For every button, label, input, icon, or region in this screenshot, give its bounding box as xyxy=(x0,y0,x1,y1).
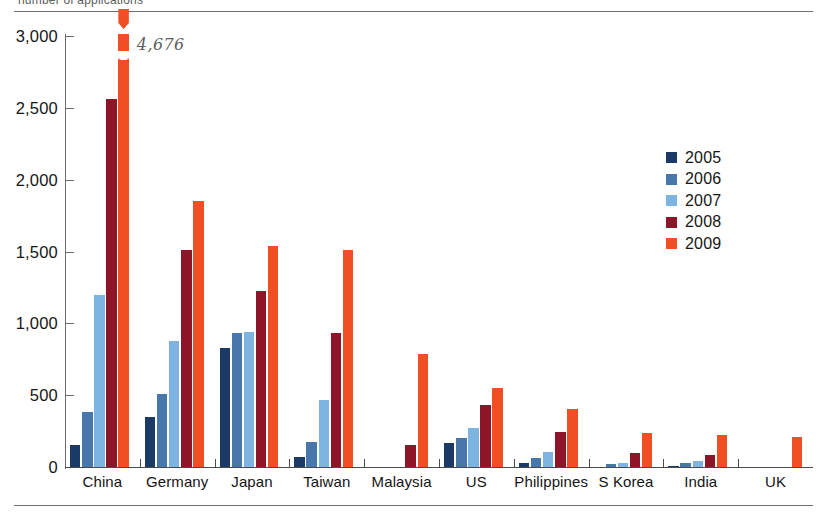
bar-malaysia-2008 xyxy=(405,445,416,467)
bar-india-2007 xyxy=(693,461,704,467)
y-axis-tick-label: 3,000 xyxy=(2,27,58,46)
bar-india-2008 xyxy=(705,455,716,467)
legend-item-2009[interactable]: 2009 xyxy=(666,233,746,255)
legend-swatch-icon xyxy=(666,217,677,228)
bar-germany-2005 xyxy=(145,417,156,467)
bar-germany-2007 xyxy=(169,341,180,467)
bar-philippines-2005 xyxy=(519,463,530,467)
legend-item-2006[interactable]: 2006 xyxy=(666,169,746,191)
x-axis-label-us: US xyxy=(466,473,487,490)
bar-taiwan-2006 xyxy=(306,442,317,467)
bar-japan-2007 xyxy=(244,332,255,467)
y-axis-tick-label: 2,000 xyxy=(2,170,58,189)
figure-caption-text: number of applications xyxy=(18,0,438,7)
bar-us-2005 xyxy=(444,443,455,467)
y-axis-tick-label: 1,500 xyxy=(2,242,58,261)
bar-taiwan-2007 xyxy=(319,400,330,467)
bar-india-2005 xyxy=(668,466,679,467)
legend-swatch-icon xyxy=(666,238,677,249)
bar-germany-2006 xyxy=(157,394,168,467)
legend-swatch-icon xyxy=(666,174,677,185)
legend-item-label: 2009 xyxy=(685,236,721,252)
legend-item-label: 2008 xyxy=(685,214,721,230)
figure-caption-clipped: number of applications xyxy=(18,0,438,10)
legend-swatch-icon xyxy=(666,195,677,206)
axis-break-notch xyxy=(118,51,129,60)
y-axis-tick-label: 0 xyxy=(2,458,58,477)
axis-break-cap xyxy=(118,9,129,29)
y-axis-tick-label: 2,500 xyxy=(2,98,58,117)
chart-legend: 20052006200720082009 xyxy=(666,147,746,255)
bar-s-korea-2009 xyxy=(642,433,653,467)
y-axis-tick-label: 1,000 xyxy=(2,314,58,333)
bar-china-2007 xyxy=(94,295,105,467)
legend-item-label: 2007 xyxy=(685,193,721,209)
bar-taiwan-2008 xyxy=(331,333,342,467)
bar-china-2008 xyxy=(106,99,117,467)
bar-s-korea-2008 xyxy=(630,453,641,467)
bar-japan-2005 xyxy=(220,348,231,467)
bar-value-annotation: 4,676 xyxy=(137,35,185,54)
bar-india-2006 xyxy=(680,463,691,467)
legend-item-label: 2005 xyxy=(685,150,721,166)
x-axis-label-philippines: Philippines xyxy=(514,473,588,490)
x-axis-label-malaysia: Malaysia xyxy=(372,473,432,490)
bar-us-2008 xyxy=(480,405,491,467)
bar-malaysia-2009 xyxy=(418,354,429,467)
bar-taiwan-2009 xyxy=(343,250,354,467)
bar-taiwan-2005 xyxy=(294,457,305,467)
bar-japan-2006 xyxy=(232,333,243,467)
bar-india-2009 xyxy=(717,435,728,467)
x-axis-label-india: India xyxy=(684,473,717,490)
x-axis-label-china: China xyxy=(83,473,123,490)
bar-china-2005 xyxy=(70,445,81,467)
x-axis-label-s-korea: S Korea xyxy=(599,473,654,490)
legend-item-2008[interactable]: 2008 xyxy=(666,212,746,234)
y-axis-tick-label: 500 xyxy=(2,386,58,405)
bar-s-korea-2007 xyxy=(618,463,629,467)
legend-item-2005[interactable]: 2005 xyxy=(666,147,746,169)
bar-germany-2009 xyxy=(193,201,204,467)
bar-us-2007 xyxy=(468,428,479,468)
x-axis-label-uk: UK xyxy=(765,473,786,490)
bar-philippines-2007 xyxy=(543,452,554,467)
bar-philippines-2006 xyxy=(531,458,542,467)
legend-item-2007[interactable]: 2007 xyxy=(666,190,746,212)
legend-item-label: 2006 xyxy=(685,171,721,187)
bar-s-korea-2006 xyxy=(606,464,617,467)
y-axis-labels: 05001,0001,5002,0002,5003,000 xyxy=(0,0,58,520)
bar-japan-2009 xyxy=(268,246,279,467)
figure-bottom-rule xyxy=(14,505,813,506)
legend-swatch-icon xyxy=(666,152,677,163)
bar-us-2009 xyxy=(492,388,503,467)
bar-philippines-2009 xyxy=(567,409,578,467)
bar-us-2006 xyxy=(456,438,467,467)
x-axis-label-germany: Germany xyxy=(146,473,208,490)
bar-japan-2008 xyxy=(256,291,267,467)
bar-germany-2008 xyxy=(181,250,192,467)
chart-figure: number of applications 05001,0001,5002,0… xyxy=(0,0,827,520)
bar-uk-2009 xyxy=(792,437,803,467)
bar-china-2006 xyxy=(82,412,93,467)
figure-top-rule xyxy=(14,11,813,12)
bar-china-2009 xyxy=(118,34,129,467)
x-axis-label-taiwan: Taiwan xyxy=(303,473,350,490)
x-axis-label-japan: Japan xyxy=(231,473,272,490)
bar-philippines-2008 xyxy=(555,432,566,467)
